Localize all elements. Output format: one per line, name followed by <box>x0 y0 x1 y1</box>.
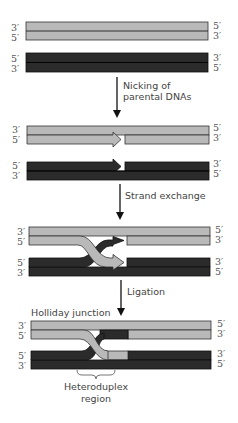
end-label: 5′ <box>12 134 20 145</box>
end-label: 3′ <box>17 267 25 278</box>
step-label: parental DNAs <box>123 91 192 102</box>
end-label: 3′ <box>217 328 225 339</box>
end-label: 3′ <box>12 170 20 181</box>
homologous-recombination-diagram: 3′ 5′ 5′ 3′ 5′ 3′ 3′ 5′ Nicking of paren… <box>0 0 238 423</box>
end-label: 5′ <box>11 32 19 43</box>
end-label: 3′ <box>213 30 221 41</box>
holliday-junction-label: Holliday junction <box>31 307 110 318</box>
end-label: 5′ <box>217 358 225 369</box>
step-arrow-nicking: Nicking of parental DNAs <box>113 77 192 118</box>
step-label: Nicking of <box>123 80 171 91</box>
end-label: 5′ <box>215 266 223 277</box>
step-label: Strand exchange <box>125 190 206 201</box>
panel-nicked: 3′ 5′ 5′ 3′ 5′ 3′ 3′ 5′ <box>12 122 221 181</box>
panel-initial: 3′ 5′ 5′ 3′ 5′ 3′ 3′ 5′ <box>11 20 221 74</box>
arrowhead-icon <box>113 110 121 118</box>
panel-holliday-junction: Holliday junction 3′ 5′ 5′ 3′ 5′ 3′ 3′ 5… <box>18 307 225 404</box>
end-label: 3′ <box>18 360 26 371</box>
step-label: Ligation <box>127 286 165 297</box>
arrowhead-icon <box>117 308 125 316</box>
end-label: 5′ <box>213 168 221 179</box>
end-label: 3′ <box>213 132 221 143</box>
step-arrow-strand-exchange: Strand exchange <box>116 184 206 220</box>
end-label: 3′ <box>215 234 223 245</box>
heteroduplex-label: region <box>81 393 111 404</box>
heteroduplex-label: Heteroduplex <box>64 381 128 392</box>
arrowhead-icon <box>116 212 124 220</box>
end-label: 5′ <box>18 330 26 341</box>
panel-strand-exchange: 3′ 5′ 5′ 3′ 5′ 3′ 3′ 5′ <box>17 224 223 278</box>
step-arrow-ligation: Ligation <box>117 280 165 316</box>
end-label: 3′ <box>11 63 19 74</box>
end-label: 5′ <box>213 62 221 73</box>
heteroduplex-brace <box>77 370 115 379</box>
end-label: 5′ <box>17 236 25 247</box>
